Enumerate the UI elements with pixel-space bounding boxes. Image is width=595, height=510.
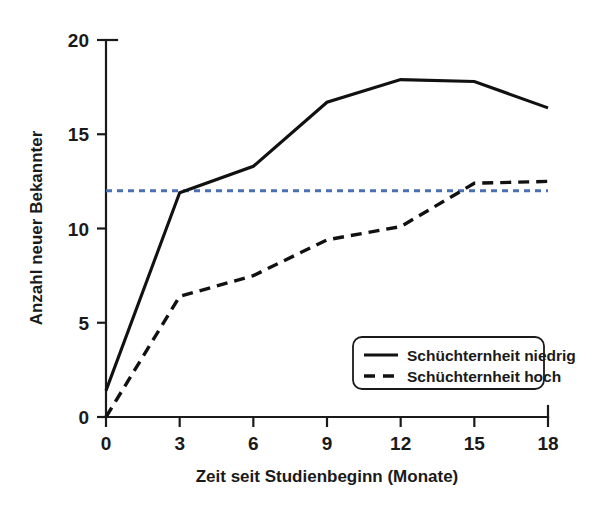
x-tick-label: 6 bbox=[248, 433, 259, 454]
x-axis-title: Zeit seit Studienbeginn (Monate) bbox=[196, 467, 459, 486]
x-tick-label: 12 bbox=[390, 433, 411, 454]
y-tick-label: 20 bbox=[68, 30, 89, 51]
legend-label-schuechternheit-niedrig: Schüchternheit niedrig bbox=[407, 347, 576, 364]
x-tick-label: 3 bbox=[174, 433, 185, 454]
chart-container: 05101520 0369121518 Zeit seit Studienbeg… bbox=[0, 0, 595, 510]
x-tick-label: 0 bbox=[101, 433, 112, 454]
chart-legend: Schüchternheit niedrig Schüchternheit ho… bbox=[353, 337, 576, 389]
y-tick-label: 5 bbox=[78, 313, 89, 334]
x-tick-label: 18 bbox=[537, 433, 558, 454]
line-chart: 05101520 0369121518 Zeit seit Studienbeg… bbox=[0, 0, 595, 510]
y-tick-label: 0 bbox=[78, 407, 89, 428]
x-tick-label: 9 bbox=[322, 433, 333, 454]
x-tick-label: 15 bbox=[464, 433, 486, 454]
x-axis-ticks: 0369121518 bbox=[101, 417, 559, 454]
legend-label-schuechternheit-hoch: Schüchternheit hoch bbox=[407, 368, 561, 385]
y-tick-label: 10 bbox=[68, 219, 89, 240]
y-axis-ticks: 05101520 bbox=[68, 30, 106, 428]
y-axis-title: Anzahl neuer Bekannter bbox=[27, 130, 46, 325]
y-tick-label: 15 bbox=[68, 124, 90, 145]
